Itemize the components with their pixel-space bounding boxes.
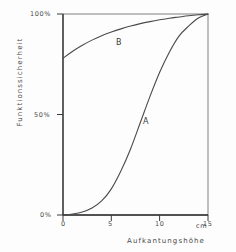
x-axis-title: Aufkantungshöhe: [127, 237, 205, 245]
y-axis-title: Funktionssicherheit: [16, 22, 24, 142]
chart-figure: 100% 50% 0% 0 5 10 15 cm Aufkantungshöhe…: [0, 0, 236, 252]
x-axis-tick-label-5: 5: [108, 220, 113, 228]
curve-series-b: [63, 14, 208, 58]
curve-annotation-a: A: [143, 117, 149, 126]
x-axis-tick-label-0: 0: [61, 220, 66, 228]
x-axis-tick-label-10: 10: [155, 220, 164, 228]
y-axis-tick-label-0: 0%: [40, 211, 52, 219]
curve-annotation-b: B: [116, 38, 122, 47]
y-axis-tick-label-50: 50%: [34, 111, 50, 119]
x-axis-unit-label: cm: [196, 222, 207, 230]
y-axis-tick-label-100: 100%: [30, 10, 51, 18]
